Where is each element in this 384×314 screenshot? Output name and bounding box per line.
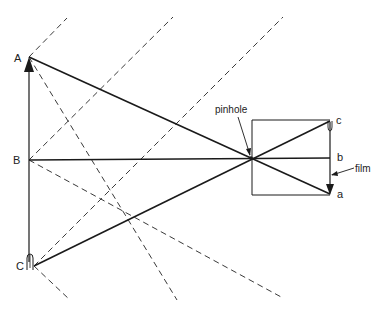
label-film: film xyxy=(355,163,371,174)
label-pinhole: pinhole xyxy=(215,104,248,115)
dashed-ray-a-down xyxy=(29,57,177,300)
label-B: B xyxy=(13,154,20,166)
ray-B-to-b xyxy=(29,158,330,160)
pinhole-camera-diagram: A B C c b a pinhole film xyxy=(0,0,384,314)
dashed-ray-b-down xyxy=(29,160,283,298)
pinhole-dot xyxy=(249,156,253,160)
object-arrow xyxy=(24,57,34,270)
label-c: c xyxy=(336,114,342,126)
film-leader-arrowhead-icon xyxy=(331,171,338,176)
label-b: b xyxy=(337,151,343,163)
label-C: C xyxy=(16,260,24,272)
principal-rays xyxy=(29,57,330,266)
dashed-ray-c-down xyxy=(34,266,70,300)
dashed-ray-b-up xyxy=(29,17,173,160)
ray-C-to-c xyxy=(34,121,330,266)
label-A: A xyxy=(14,52,22,64)
ray-A-to-a xyxy=(29,57,330,194)
dashed-ray-a-up xyxy=(29,18,67,57)
label-a: a xyxy=(337,188,344,200)
